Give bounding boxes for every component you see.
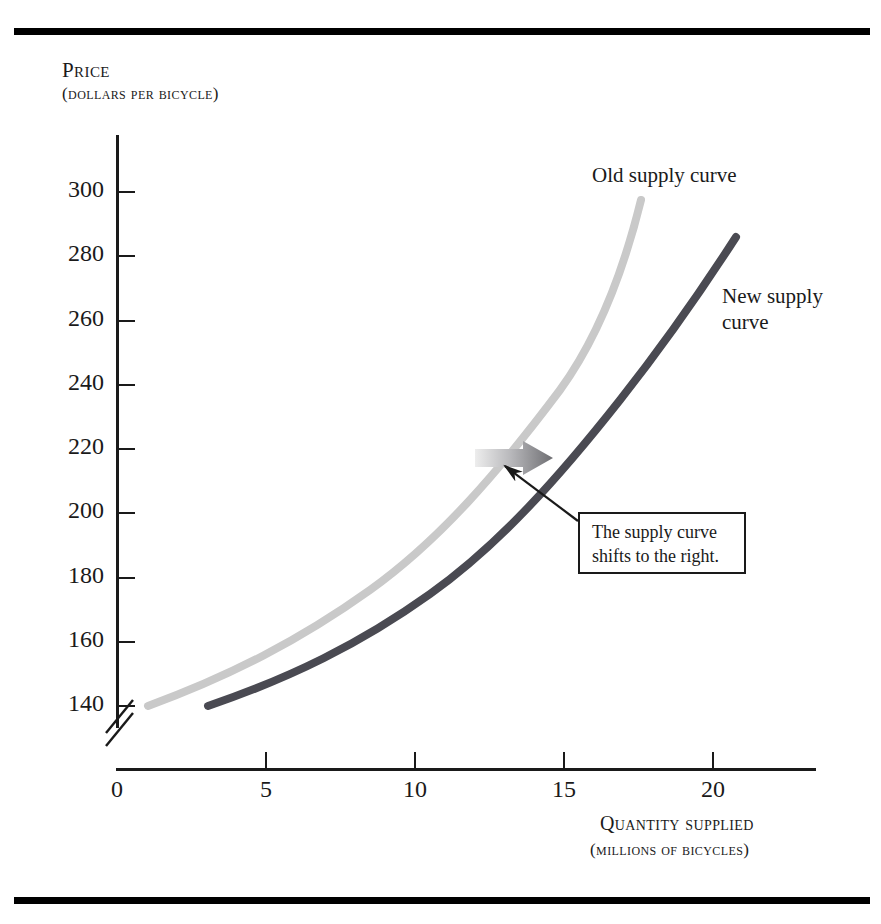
y-tick-mark [119,705,135,707]
y-tick-mark [119,255,135,257]
y-axis-line [116,135,119,728]
callout-leader-line [505,466,578,521]
x-tick-label: 0 [87,776,147,803]
shift-arrow-icon [475,441,553,475]
x-tick-mark [265,752,267,769]
y-tick-mark [119,384,135,386]
x-tick-label: 15 [534,776,594,803]
y-tick-label: 180 [12,562,104,589]
top-rule [14,28,870,35]
y-tick-label: 280 [12,240,104,267]
x-axis-subtitle: (millions of bicycles) [590,840,749,860]
x-axis-title: Quantity supplied [600,812,754,835]
y-tick-mark [119,191,135,193]
y-tick-mark [119,320,135,322]
bottom-rule [14,897,870,904]
x-tick-mark [414,752,416,769]
callout-box: The supply curve shifts to the right. [578,512,746,574]
y-tick-mark [119,512,135,514]
y-tick-label: 260 [12,305,104,332]
y-tick-mark [119,448,135,450]
new-supply-curve-label-line1: New supply [722,283,823,309]
y-tick-mark [119,641,135,643]
y-tick-label: 140 [12,690,104,717]
x-tick-label: 10 [385,776,445,803]
old-supply-curve-label: Old supply curve [592,162,737,188]
x-tick-mark [712,752,714,769]
y-tick-label: 240 [12,369,104,396]
y-tick-mark [119,577,135,579]
new-supply-curve-label: New supply curve [722,283,823,336]
x-tick-label: 20 [683,776,743,803]
new-supply-curve [208,237,736,706]
y-axis-title: Price [62,58,110,83]
y-tick-label: 160 [12,626,104,653]
x-axis-line [116,768,816,771]
old-supply-curve [148,200,641,706]
y-tick-label: 200 [12,497,104,524]
x-tick-label: 5 [236,776,296,803]
callout-text: The supply curve shifts to the right. [592,520,719,569]
y-axis-subtitle: (dollars per bicycle) [62,84,219,104]
x-tick-mark [563,752,565,769]
y-tick-label: 220 [12,433,104,460]
y-tick-label: 300 [12,176,104,203]
new-supply-curve-label-line2: curve [722,309,823,335]
